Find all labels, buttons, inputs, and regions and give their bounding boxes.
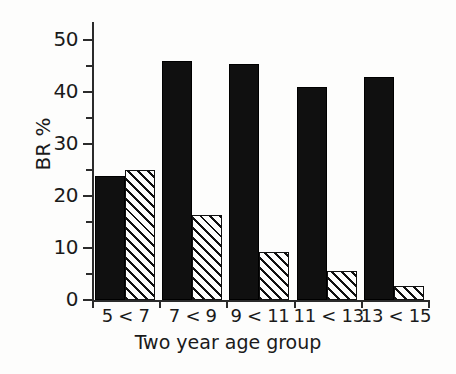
y-axis-tick-major: [83, 143, 92, 145]
x-axis-line: [92, 300, 428, 302]
plot-area: [92, 22, 428, 300]
y-axis-tick-major: [83, 299, 92, 301]
x-axis-tick-label: 5 < 7: [92, 307, 159, 325]
bar-hatched-4: [394, 286, 424, 300]
x-axis-title: Two year age group: [0, 331, 456, 353]
bar-hatched-0: [125, 170, 155, 300]
bar-solid-2: [229, 64, 259, 300]
bar-hatched-1: [192, 215, 222, 300]
bar-solid-0: [95, 176, 125, 300]
y-axis-tick-major: [83, 91, 92, 93]
y-axis-tick-label: 0: [0, 289, 78, 309]
bar-hatched-3: [327, 271, 357, 300]
chart-figure: 01020304050 BR % 5 < 77 < 99 < 1111 < 13…: [0, 0, 456, 374]
y-axis-tick-major: [83, 39, 92, 41]
y-axis-title: BR %: [31, 99, 55, 189]
y-axis-tick-label: 10: [0, 237, 78, 257]
bar-hatched-2: [259, 252, 289, 300]
bar-solid-3: [297, 87, 327, 300]
bar-solid-4: [364, 77, 394, 300]
x-axis-tick-label: 9 < 11: [226, 307, 293, 325]
y-axis-tick-major: [83, 247, 92, 249]
y-axis-tick-label: 40: [0, 81, 78, 101]
x-axis-tick-label: 11 < 13: [294, 307, 361, 325]
y-axis-tick-label: 50: [0, 29, 78, 49]
x-axis-tick-label: 13 < 15: [361, 307, 428, 325]
bar-solid-1: [162, 61, 192, 300]
y-axis-tick-major: [83, 195, 92, 197]
x-axis-tick-label: 7 < 9: [159, 307, 226, 325]
